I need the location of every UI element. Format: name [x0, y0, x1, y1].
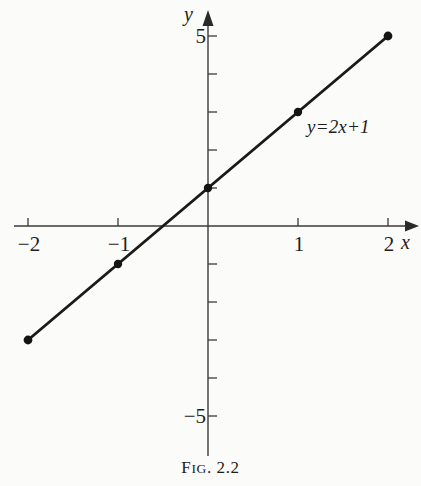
data-point [294, 108, 302, 116]
x-tick-label-2: 2 [384, 234, 395, 255]
figure-container: y x 5 −5 −2 −1 1 2 y=2x+1 FIG. 2.2 [0, 0, 421, 486]
caption-smallcaps: IG [191, 461, 206, 476]
y-tick-label-5: 5 [196, 26, 207, 47]
y-axis-label: y [184, 4, 193, 24]
data-point [204, 184, 212, 192]
x-tick-label-minus-1: −1 [108, 234, 130, 255]
equation-annotation: y=2x+1 [307, 117, 370, 136]
x-tick-label-1: 1 [294, 234, 305, 255]
x-tick-label-minus-2: −2 [18, 234, 40, 255]
x-axis-label: x [401, 232, 410, 252]
data-point [24, 336, 33, 345]
figure-caption: FIG. 2.2 [0, 458, 421, 478]
data-point [114, 260, 122, 268]
caption-number: . 2.2 [207, 458, 240, 477]
data-point [384, 32, 393, 41]
line-plot [0, 0, 421, 486]
x-axis-arrow-icon [405, 221, 419, 232]
caption-prefix: F [181, 458, 191, 477]
y-tick-label-minus-5: −5 [184, 406, 206, 427]
